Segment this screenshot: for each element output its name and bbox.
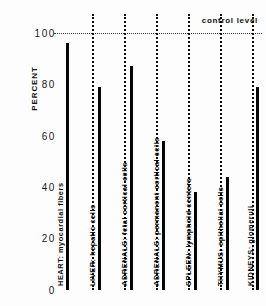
y-tick-100: 100 — [22, 28, 56, 39]
y-tick-80: 80 — [22, 79, 56, 90]
bar-label-liver: LIVER: hepatic cells — [87, 126, 98, 288]
bar-heart — [66, 43, 69, 290]
y-tick-0: 0 — [22, 285, 56, 296]
bar-thymus — [226, 177, 229, 290]
bar-adrenals-fetal — [130, 66, 133, 290]
bar-label-heart: HEART: myocardial fibers — [55, 126, 66, 288]
bar-spleen — [194, 192, 197, 290]
bar-kidneys — [256, 87, 259, 290]
bar-label-adrenals-fetal: ADRENALS: fetal cortical cells — [119, 126, 130, 288]
bar-label-kidneys: KIDNEYS: glomeruli — [245, 126, 256, 288]
plot-area: control level HEART: myocardial fibers L… — [60, 14, 260, 292]
bar-group-kidneys: KIDNEYS: glomeruli — [256, 14, 266, 292]
bar-chart: PERCENT 0 20 40 60 80 100 control level … — [0, 0, 266, 306]
bar-label-thymus: THYMUS: epithelial cells — [215, 126, 226, 288]
bar-liver — [98, 87, 101, 290]
y-tick-60: 60 — [22, 131, 56, 142]
y-tick-40: 40 — [22, 182, 56, 193]
bar-label-adrenals-permanent: ADRENALS: permanent cortical cells — [151, 126, 162, 288]
bar-adrenals-permanent — [162, 141, 165, 290]
y-tick-20: 20 — [22, 233, 56, 244]
bar-label-spleen: SPLEEN: lymphoid centers — [183, 126, 194, 288]
